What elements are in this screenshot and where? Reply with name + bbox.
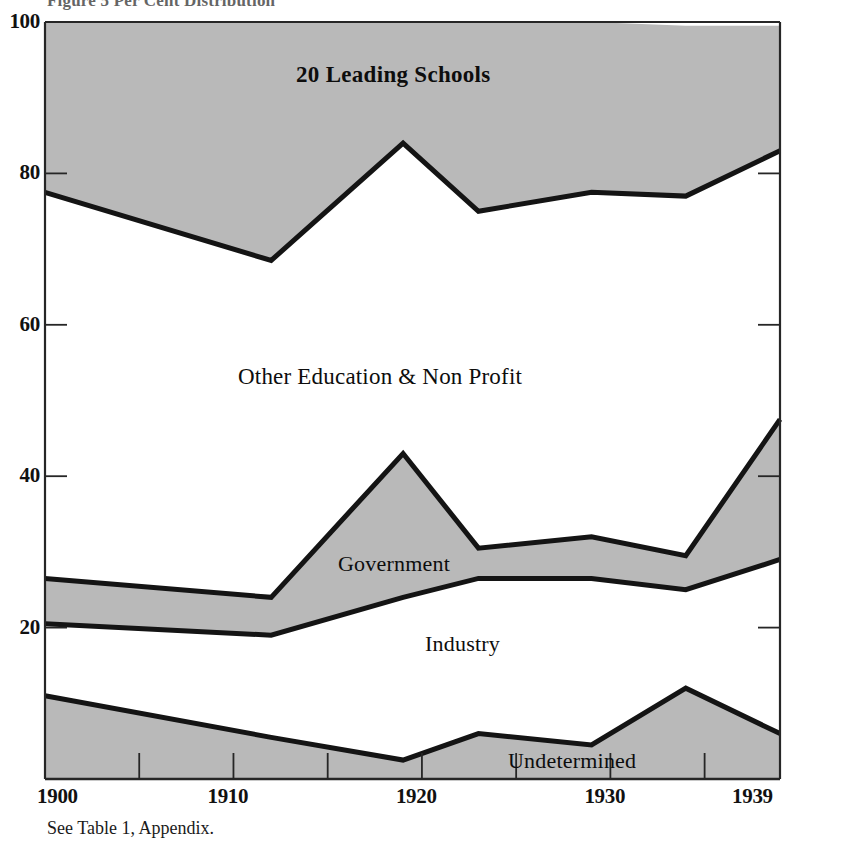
chart-canvas <box>0 0 843 850</box>
figure-root: Figure 5 Per Cent Distribution 100806040… <box>0 0 843 850</box>
x-tick-label-1939: 1939 <box>732 784 773 809</box>
y-tick-label-40: 40 <box>0 463 40 488</box>
source-note: See Table 1, Appendix. <box>47 818 214 839</box>
band-label-industry: Industry <box>425 631 500 657</box>
x-tick-label-1910: 1910 <box>207 784 248 809</box>
band-label-undetermined: Undetermined <box>508 748 636 774</box>
x-tick-label-1930: 1930 <box>584 784 625 809</box>
x-tick-label-1920: 1920 <box>396 784 437 809</box>
band-label-other-education: Other Education & Non Profit <box>238 364 522 390</box>
y-tick-label-20: 20 <box>0 615 40 640</box>
y-tick-label-60: 60 <box>0 312 40 337</box>
x-tick-label-1900: 1900 <box>37 784 78 809</box>
stacked-area-bands <box>45 22 780 779</box>
band-label-schools: 20 Leading Schools <box>296 62 491 88</box>
y-tick-label-80: 80 <box>0 160 40 185</box>
y-tick-label-100: 100 <box>0 9 40 34</box>
band-label-government: Government <box>338 551 450 577</box>
